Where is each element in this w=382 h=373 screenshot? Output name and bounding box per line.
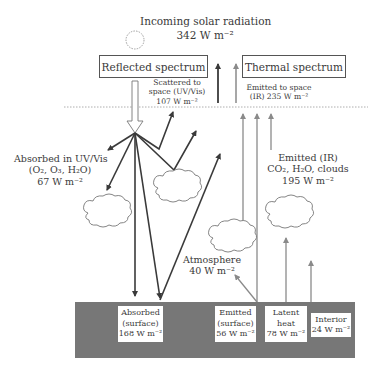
cloud-icon bbox=[84, 194, 132, 227]
reflected-spectrum-box: Reflected spectrum bbox=[99, 55, 208, 78]
title-line2: 342 W m⁻² bbox=[140, 29, 270, 41]
cloud-icon bbox=[154, 169, 202, 202]
latent-heat-label: Latent heat 78 W m⁻² bbox=[265, 306, 307, 342]
emitted-surface-label: Emitted (surface) 56 W m⁻² bbox=[215, 306, 256, 342]
thermal-spectrum-label: Thermal spectrum bbox=[245, 61, 343, 73]
interior-label: Interior 24 W m⁻² bbox=[311, 313, 351, 337]
title-line1: Incoming solar radiation bbox=[140, 15, 270, 27]
atmosphere-label: Atmosphere 40 W m⁻² bbox=[182, 254, 242, 277]
cloud-icon bbox=[209, 219, 257, 252]
absorbed-surface-label: Absorbed (surface) 168 W m⁻² bbox=[118, 306, 163, 342]
reflected-spectrum-label: Reflected spectrum bbox=[102, 61, 206, 73]
emitted-ir-label: Emitted (IR) CO₂, H₂O, clouds 195 W m⁻² bbox=[262, 152, 354, 186]
scattered-label: Scattered to space (UV/Vis) 107 W m⁻² bbox=[146, 78, 208, 106]
thermal-spectrum-box: Thermal spectrum bbox=[242, 55, 346, 78]
absorbed-uv-label: Absorbed in UV/Vis (O₂, O₃, H₂O) 67 W m⁻… bbox=[14, 153, 106, 187]
cloud-icon bbox=[266, 195, 314, 228]
emitted-to-space-label: Emitted to space (IR) 235 W m⁻² bbox=[243, 83, 315, 102]
incoming-arrow bbox=[127, 81, 143, 133]
